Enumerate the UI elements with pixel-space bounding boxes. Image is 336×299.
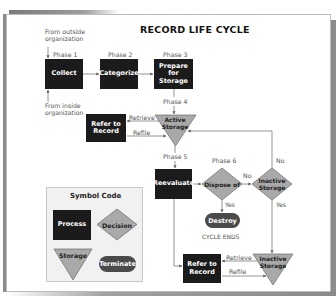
legend-decision: Decision	[99, 219, 135, 231]
legend-terminate-label: Terminate	[99, 260, 136, 268]
legend-decision-label: Decision	[102, 222, 132, 229]
legend-shapes	[0, 0, 336, 299]
legend-storage-label: Storage	[59, 252, 87, 259]
legend-terminate-symbol: Terminate	[99, 256, 136, 272]
legend-storage: Storage	[58, 250, 88, 260]
